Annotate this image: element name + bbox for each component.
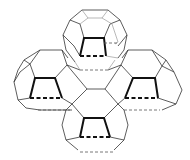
central-prism: [67, 60, 121, 89]
bottom-cage: [62, 89, 128, 152]
sodalite-cage-diagram: [0, 0, 190, 160]
top-cage: [63, 10, 127, 62]
right-cage: [118, 50, 182, 110]
left-cage: [14, 50, 72, 110]
